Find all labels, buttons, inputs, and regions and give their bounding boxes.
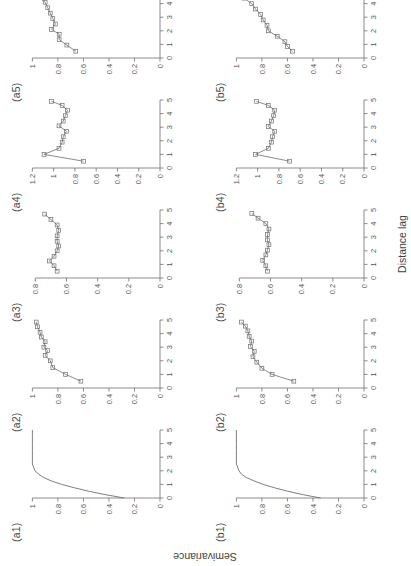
y-tick-label: 0.6	[266, 284, 275, 294]
panel-b5: (b5)01234500.20.40.60.81	[214, 14, 392, 118]
x-tick-label: 0	[165, 276, 174, 280]
y-tick-label: 0	[156, 394, 165, 398]
y-tick-label: 1	[28, 64, 37, 68]
y-tick-label: 0.8	[235, 284, 244, 294]
y-tick-label: 0.8	[71, 174, 80, 184]
y-tick-label: 1.2	[232, 174, 241, 184]
x-axis-title-wrapper: Distance lag	[392, 184, 410, 304]
panel-label: (b3)	[214, 303, 226, 322]
y-tick-label: 0.8	[258, 394, 267, 404]
panel-a2: (a2)01234500.20.40.60.81	[10, 344, 188, 448]
panel-label: (b1)	[214, 523, 226, 542]
x-tick-label: 2	[369, 29, 378, 33]
x-tick-label: 1	[369, 152, 378, 156]
panel-a1: (a1)01234500.20.40.60.81	[10, 454, 188, 558]
panel-a4: (a4)01234500.20.40.60.811.2	[10, 124, 188, 228]
plot-svg: 01234500.20.40.60.81	[228, 0, 380, 88]
panel-label: (a5)	[10, 83, 22, 102]
y-tick-label: 0.2	[334, 394, 343, 404]
y-axis-title: Semivariance	[173, 551, 237, 563]
y-tick-label: 0.2	[130, 504, 139, 514]
x-tick-label: 3	[165, 455, 174, 459]
y-tick-label: 0.8	[54, 394, 63, 404]
plot-area: 01234500.20.40.60.81	[228, 460, 362, 528]
x-tick-label: 3	[369, 345, 378, 349]
y-tick-label: 0.6	[283, 64, 292, 74]
x-tick-label: 3	[369, 15, 378, 19]
data-point-marker	[79, 379, 83, 383]
panel-b1: (b1)01234500.20.40.60.81	[214, 454, 392, 558]
panel-label: (b2)	[214, 413, 226, 432]
y-tick-label: 0	[156, 504, 165, 508]
y-tick-label: 0.4	[105, 504, 114, 514]
plot-area: 01234500.20.40.60.8	[24, 240, 158, 308]
plot-area: 01234500.20.40.60.811.2	[24, 130, 158, 198]
x-tick-label: 2	[369, 359, 378, 363]
y-tick-label: 0.8	[54, 64, 63, 74]
plot-area: 01234500.20.40.60.811.2	[228, 130, 362, 198]
x-tick-label: 3	[165, 125, 174, 129]
x-tick-label: 0	[369, 276, 378, 280]
y-tick-label: 0	[360, 284, 369, 288]
y-tick-label: 0.2	[134, 174, 143, 184]
y-tick-label: 0.4	[317, 174, 326, 184]
x-tick-label: 3	[369, 455, 378, 459]
plot-area: 01234500.20.40.60.81	[24, 460, 158, 528]
x-tick-label: 2	[165, 469, 174, 473]
panel-b4: (b4)01234500.20.40.60.811.2	[214, 124, 392, 228]
x-tick-label: 0	[369, 166, 378, 170]
y-tick-label: 1	[28, 504, 37, 508]
y-tick-label: 0.2	[130, 64, 139, 74]
y-tick-label: 1	[232, 64, 241, 68]
y-tick-label: 0.2	[130, 394, 139, 404]
x-tick-label: 3	[165, 235, 174, 239]
y-tick-label: 0.2	[328, 284, 337, 294]
y-tick-label: 0.8	[31, 284, 40, 294]
plot-area: 01234500.20.40.60.81	[24, 350, 158, 418]
y-tick-label: 0	[360, 394, 369, 398]
x-tick-label: 0	[165, 386, 174, 390]
y-tick-label: 1	[232, 504, 241, 508]
y-tick-label: 0.4	[93, 284, 102, 294]
x-tick-label: 1	[165, 372, 174, 376]
y-tick-label: 0.2	[124, 284, 133, 294]
panel-label: (a3)	[10, 303, 22, 322]
plot-area: 01234500.20.40.60.81	[24, 20, 158, 88]
panel-a5: (a5)01234500.20.40.60.81	[10, 14, 188, 118]
plot-area: 01234500.20.40.60.8	[228, 240, 362, 308]
x-tick-label: 2	[165, 139, 174, 143]
x-tick-label: 2	[369, 249, 378, 253]
x-tick-label: 3	[369, 125, 378, 129]
x-tick-label: 3	[165, 15, 174, 19]
y-tick-label: 0	[156, 284, 165, 288]
x-axis-title: Distance lag	[396, 215, 408, 273]
y-tick-label: 0.6	[283, 394, 292, 404]
x-tick-label: 0	[369, 386, 378, 390]
y-tick-label: 0.4	[309, 64, 318, 74]
y-tick-label: 0.8	[258, 504, 267, 514]
x-tick-label: 1	[165, 482, 174, 486]
figure-rotation-wrapper: (a1)01234500.20.40.60.81(a2)01234500.20.…	[0, 0, 411, 566]
x-tick-label: 2	[369, 139, 378, 143]
panel-label: (a2)	[10, 413, 22, 432]
x-tick-label: 4	[369, 2, 378, 6]
y-tick-label: 0.6	[79, 64, 88, 74]
plot-svg: 01234500.20.40.60.81	[24, 0, 176, 88]
y-tick-label: 0	[156, 174, 165, 178]
x-tick-label: 1	[165, 262, 174, 266]
plot-area: 01234500.20.40.60.81	[228, 350, 362, 418]
y-tick-label: 1	[232, 394, 241, 398]
x-tick-label: 1	[369, 262, 378, 266]
x-tick-label: 1	[369, 372, 378, 376]
panel-b3: (b3)01234500.20.40.60.8	[214, 234, 392, 338]
x-tick-label: 3	[369, 235, 378, 239]
x-tick-label: 0	[165, 166, 174, 170]
semivariogram-figure: (a1)01234500.20.40.60.81(a2)01234500.20.…	[0, 0, 411, 566]
panel-label: (a4)	[10, 193, 22, 212]
y-tick-label: 0.4	[309, 504, 318, 514]
y-tick-label: 0.6	[79, 504, 88, 514]
x-tick-label: 3	[165, 345, 174, 349]
y-tick-label: 0	[360, 64, 369, 68]
y-tick-label: 1	[28, 394, 37, 398]
x-tick-label: 0	[369, 496, 378, 500]
